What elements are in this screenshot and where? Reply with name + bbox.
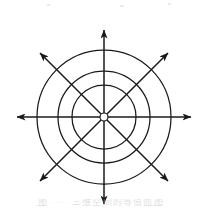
diagonal-axis-down-right-ray bbox=[104, 117, 168, 181]
figure-page: ·· ····· ·· ····· ·· ·· ·· bbox=[0, 0, 202, 210]
origin-circle bbox=[100, 113, 108, 121]
diagonal-axis-up-right-ray bbox=[104, 53, 168, 117]
scanned-caption-text: 图 ···· 三维空间的等值面图 bbox=[0, 199, 202, 210]
polar-coordinate-diagram bbox=[0, 0, 202, 210]
diagonal-axis-up-left-ray bbox=[40, 53, 104, 117]
scanned-caption-text-label: 图 ···· 三维空间的等值面图 bbox=[38, 199, 164, 207]
diagonal-axis-down-left-ray bbox=[40, 117, 104, 181]
